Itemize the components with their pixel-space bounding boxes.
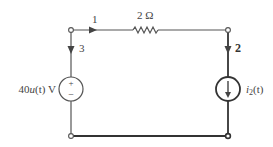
- circuit-svg: + − 1 2 Ω 3 2 40u(t) V i2(t): [0, 0, 273, 147]
- node-bottom-left: [69, 134, 74, 139]
- voltage-source-plus: +: [68, 78, 73, 88]
- voltage-source-minus: −: [68, 89, 74, 100]
- branch-2-arrow-icon: [225, 46, 232, 54]
- circuit-diagram: + − 1 2 Ω 3 2 40u(t) V i2(t): [0, 0, 273, 147]
- resistor-2-ohm: [133, 27, 158, 33]
- current-source-label: i2(t): [246, 83, 264, 97]
- branch-1-label: 1: [92, 13, 98, 25]
- voltage-source-label: 40u(t) V: [19, 83, 56, 96]
- resistor-label: 2 Ω: [137, 9, 153, 21]
- branch-2-label: 2: [235, 41, 241, 55]
- node-top-left: [69, 28, 74, 33]
- node-bottom-right: [226, 134, 231, 139]
- node-top-right: [226, 28, 231, 33]
- branch-1-arrow-icon: [89, 27, 97, 34]
- branch-3-label: 3: [79, 42, 85, 54]
- branch-3-arrow-icon: [68, 46, 75, 54]
